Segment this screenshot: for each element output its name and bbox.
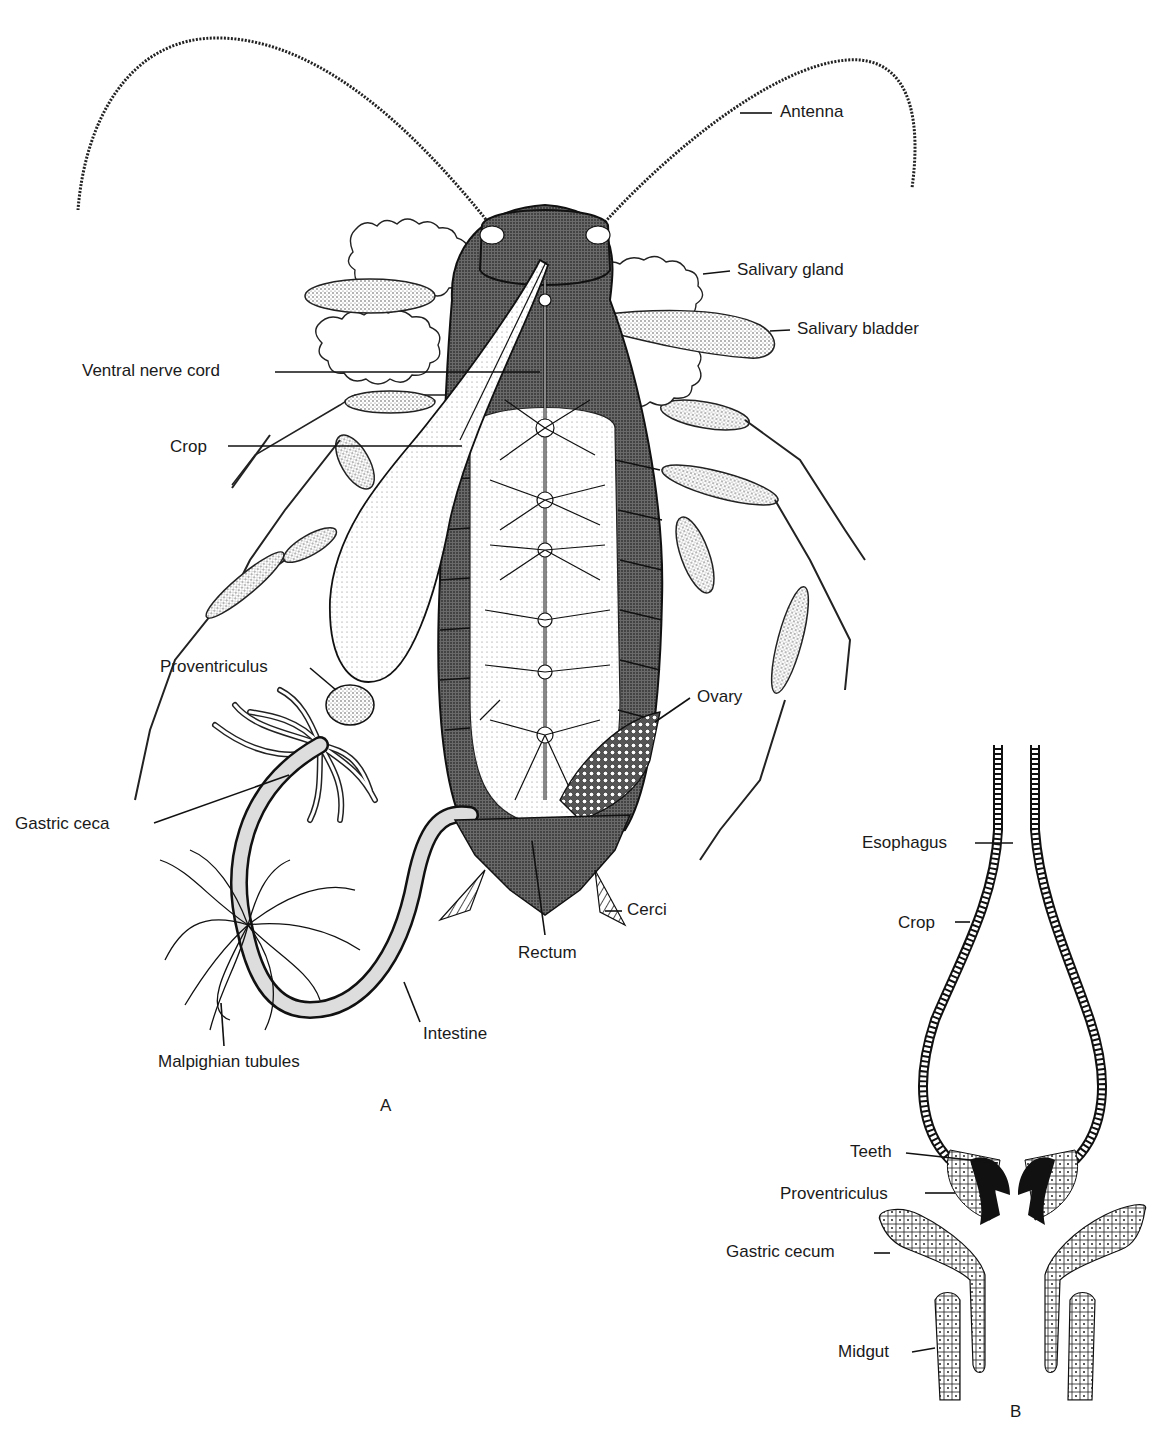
label-ventral-nerve-cord: Ventral nerve cord (82, 362, 220, 379)
gastric-cecum-right (1045, 1205, 1146, 1373)
proventriculus (326, 685, 374, 725)
label-proventriculus-b: Proventriculus (780, 1185, 888, 1202)
label-salivary-bladder: Salivary bladder (797, 320, 919, 337)
panel-letter-a: A (380, 1096, 391, 1116)
label-gastric-ceca: Gastric ceca (15, 815, 109, 832)
label-salivary-gland: Salivary gland (737, 261, 844, 278)
label-midgut: Midgut (838, 1343, 889, 1360)
label-gastric-cecum: Gastric cecum (726, 1243, 835, 1260)
midgut-right (1068, 1293, 1095, 1401)
midgut-left (935, 1293, 960, 1401)
cercus-right (595, 870, 625, 925)
panel-letter-b: B (1010, 1402, 1021, 1422)
label-rectum: Rectum (518, 944, 577, 961)
antenna-right (605, 60, 915, 222)
label-cerci: Cerci (627, 901, 667, 918)
figure-drawing (0, 0, 1165, 1431)
label-esophagus: Esophagus (862, 834, 947, 851)
label-proventriculus: Proventriculus (160, 658, 268, 675)
label-antenna: Antenna (780, 103, 843, 120)
label-intestine: Intestine (423, 1025, 487, 1042)
label-crop: Crop (170, 438, 207, 455)
antenna-left (78, 38, 488, 222)
label-malpighian-tubules: Malpighian tubules (158, 1053, 300, 1070)
label-teeth: Teeth (850, 1143, 892, 1160)
panel-b-leader-lines (874, 843, 1013, 1352)
cercus-left (440, 870, 485, 920)
anatomy-figure: Antenna Salivary gland Salivary bladder … (0, 0, 1165, 1431)
salivary-bladder-left (305, 279, 435, 313)
label-crop-b: Crop (898, 914, 935, 931)
label-ovary: Ovary (697, 688, 742, 705)
panel-a-drawing (78, 38, 915, 1030)
foregut-left-wall (923, 745, 998, 1160)
